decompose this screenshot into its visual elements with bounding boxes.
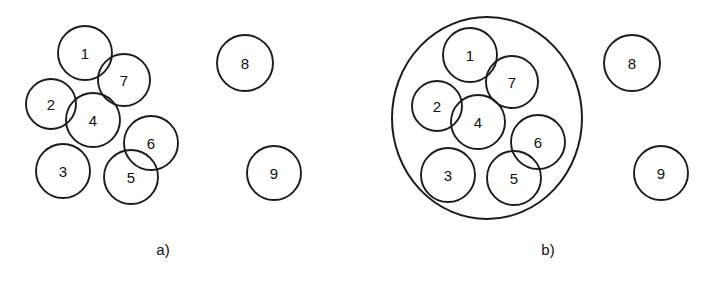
circle-label: 5 — [127, 169, 135, 186]
circle-label: 1 — [466, 47, 474, 64]
circle-label: 4 — [89, 112, 97, 129]
circle-label: 9 — [270, 165, 278, 182]
circle-clustering-figure: 172463589a)172463589b) — [0, 0, 719, 288]
circle-label: 2 — [47, 96, 55, 113]
circle-node-8[interactable]: 8 — [604, 35, 660, 91]
circle-label: 1 — [81, 45, 89, 62]
circle-label: 6 — [534, 134, 542, 151]
figure-root: 172463589a)172463589b) — [0, 0, 719, 288]
circle-label: 7 — [120, 72, 128, 89]
panel-caption: b) — [541, 241, 554, 258]
circle-node-5[interactable]: 5 — [487, 151, 541, 205]
circle-label: 8 — [628, 55, 636, 72]
panel-caption: a) — [156, 241, 169, 258]
panel-a: 172463589a) — [26, 26, 301, 258]
circle-label: 3 — [444, 167, 452, 184]
circle-node-5[interactable]: 5 — [104, 150, 158, 204]
circle-node-4[interactable]: 4 — [66, 93, 120, 147]
circle-node-9[interactable]: 9 — [247, 146, 301, 200]
circle-label: 2 — [433, 98, 441, 115]
circle-label: 8 — [241, 55, 249, 72]
circle-label: 4 — [474, 114, 482, 131]
circle-node-3[interactable]: 3 — [36, 144, 90, 198]
circle-label: 3 — [59, 163, 67, 180]
circle-node-4[interactable]: 4 — [451, 95, 505, 149]
panels-group: 172463589a)172463589b) — [26, 17, 688, 258]
circle-node-3[interactable]: 3 — [421, 148, 475, 202]
circle-node-8[interactable]: 8 — [217, 35, 273, 91]
circle-node-9[interactable]: 9 — [634, 146, 688, 200]
circle-label: 7 — [508, 74, 516, 91]
circle-label: 6 — [147, 135, 155, 152]
circle-label: 9 — [657, 165, 665, 182]
circle-label: 5 — [510, 170, 518, 187]
panel-b: 172463589b) — [392, 17, 688, 258]
